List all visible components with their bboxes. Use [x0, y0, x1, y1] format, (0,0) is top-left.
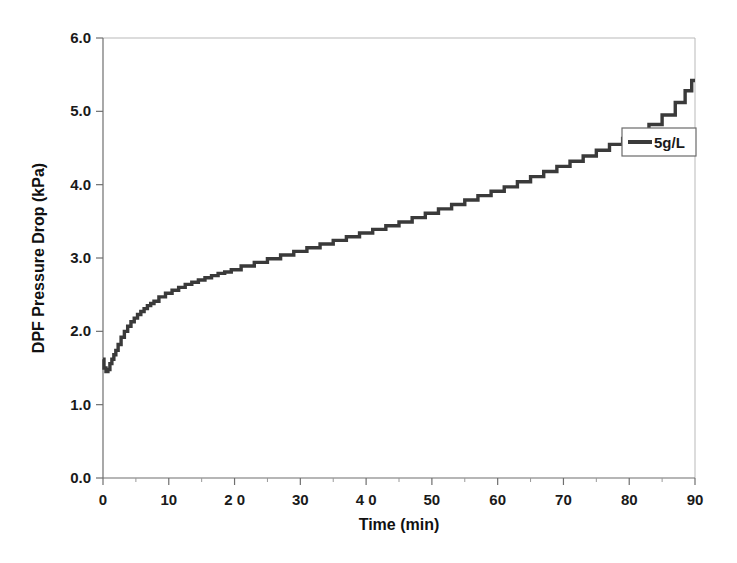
x-tick-label: 4 0 — [356, 491, 377, 508]
chart-figure: 0.01.02.03.04.05.06.0 0102 0304 05060708… — [0, 0, 737, 563]
y-axis-title: DPF Pressure Drop (kPa) — [30, 163, 47, 353]
x-tick-label: 10 — [160, 491, 177, 508]
x-tick-label: 80 — [621, 491, 638, 508]
x-tick-label: 60 — [489, 491, 506, 508]
x-tick-label: 30 — [292, 491, 309, 508]
x-axis-title: Time (min) — [359, 516, 440, 533]
y-tick-label: 0.0 — [70, 469, 91, 486]
y-tick-label: 3.0 — [70, 249, 91, 266]
x-tick-label: 50 — [424, 491, 441, 508]
legend-label-5gl: 5g/L — [654, 134, 685, 151]
y-tick-label: 1.0 — [70, 396, 91, 413]
x-tick-label: 2 0 — [224, 491, 245, 508]
y-tick-label: 4.0 — [70, 176, 91, 193]
y-tick-label: 6.0 — [70, 29, 91, 46]
line-chart: 0.01.02.03.04.05.06.0 0102 0304 05060708… — [0, 0, 737, 563]
legend[interactable]: 5g/L — [622, 128, 696, 156]
y-tick-label: 2.0 — [70, 322, 91, 339]
x-tick-label: 0 — [99, 491, 107, 508]
y-tick-label: 5.0 — [70, 102, 91, 119]
x-tick-label: 70 — [555, 491, 572, 508]
x-tick-label: 90 — [687, 491, 704, 508]
